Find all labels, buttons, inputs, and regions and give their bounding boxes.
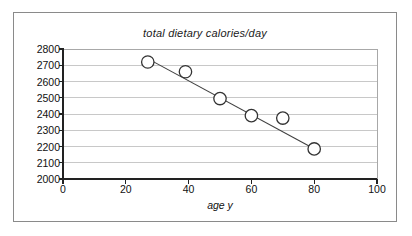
gridlines — [63, 65, 377, 163]
x-axis-title: age y — [63, 199, 377, 211]
trendline — [151, 60, 317, 150]
plot-area — [63, 49, 377, 179]
data-point[interactable] — [214, 92, 226, 104]
data-point[interactable] — [308, 143, 320, 155]
y-tick-label: 2600 — [37, 76, 60, 88]
y-tick-label: 2800 — [37, 43, 60, 55]
data-point[interactable] — [142, 56, 154, 68]
y-axis-tick-labels: 2800 2700 2600 2500 2400 2300 2200 2100 … — [18, 49, 60, 179]
y-tick-label: 2300 — [37, 124, 60, 136]
x-tick-label: 40 — [183, 183, 195, 195]
data-point-markers — [142, 56, 321, 155]
y-tick-label: 2700 — [37, 59, 60, 71]
y-tick-label: 2500 — [37, 92, 60, 104]
y-tick-label: 2400 — [37, 108, 60, 120]
x-tick-label: 0 — [60, 183, 66, 195]
x-tick-label: 20 — [120, 183, 132, 195]
y-tick-label: 2100 — [37, 157, 60, 169]
y-tick-label: 2200 — [37, 141, 60, 153]
data-point[interactable] — [179, 66, 191, 78]
data-point[interactable] — [245, 109, 257, 121]
chart-plot-svg — [63, 49, 377, 179]
x-axis-tick-labels: 0 20 40 60 80 100 — [63, 183, 377, 199]
chart-frame: total dietary calories/day 2800 2700 260… — [13, 12, 397, 222]
x-tick-label: 100 — [368, 183, 386, 195]
x-tick-label: 60 — [246, 183, 258, 195]
x-tick-label: 80 — [308, 183, 320, 195]
data-point[interactable] — [277, 112, 289, 124]
chart-title: total dietary calories/day — [14, 27, 396, 39]
y-tick-label: 2000 — [37, 173, 60, 185]
